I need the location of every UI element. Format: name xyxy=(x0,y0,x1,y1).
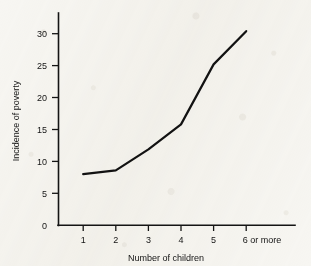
x-tick-label-4: 4 xyxy=(178,235,183,245)
y-tick-label-15: 15 xyxy=(37,125,47,135)
y-axis-ticks xyxy=(52,34,58,194)
x-tick-label-5: 5 xyxy=(211,235,216,245)
y-tick-label-0: 0 xyxy=(42,221,47,231)
y-tick-label-30: 30 xyxy=(37,29,47,39)
y-tick-label-10: 10 xyxy=(37,157,47,167)
x-axis-title: Number of children xyxy=(128,253,204,263)
line-chart-plot: 30 25 20 15 10 5 0 1 2 3 4 5 6 or more xyxy=(0,0,311,266)
y-tick-label-25: 25 xyxy=(37,61,47,71)
poverty-incidence-line xyxy=(83,31,246,174)
y-tick-label-5: 5 xyxy=(42,189,47,199)
chart-figure: 30 25 20 15 10 5 0 1 2 3 4 5 6 or more xyxy=(0,0,311,266)
x-tick-label-6-or-more: 6 or more xyxy=(243,235,282,245)
x-axis-tick-labels: 1 2 3 4 5 6 or more xyxy=(81,235,282,245)
x-tick-label-3: 3 xyxy=(146,235,151,245)
x-tick-label-2: 2 xyxy=(113,235,118,245)
y-tick-label-20: 20 xyxy=(37,93,47,103)
y-axis-tick-labels: 30 25 20 15 10 5 0 xyxy=(37,29,47,231)
x-tick-label-1: 1 xyxy=(81,235,86,245)
y-axis-title: Incidence of poverty xyxy=(11,80,21,161)
